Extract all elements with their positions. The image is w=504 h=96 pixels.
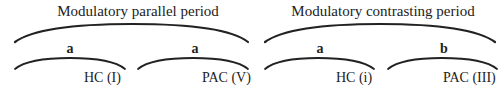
period-2-phrase-1-cadence: HC (i) — [336, 70, 372, 86]
period-2-phrase-1-arc — [265, 58, 374, 69]
period-1-arc — [15, 24, 248, 42]
period-2-phrase-2-cadence: PAC (III) — [443, 70, 496, 86]
period-1-phrase-1-arc — [15, 58, 125, 69]
period-1-phrase-2-label: a — [192, 41, 199, 57]
period-2-phrase-1-label: a — [317, 41, 324, 57]
period-1-title: Modulatory parallel period — [57, 3, 219, 20]
period-1-phrase-1-cadence: HC (I) — [84, 70, 121, 86]
period-2-arc — [265, 24, 495, 42]
period-2-title: Modulatory contrasting period — [291, 3, 474, 20]
period-1-phrase-1-label: a — [67, 41, 74, 57]
period-1-phrase-2-arc — [138, 58, 248, 69]
period-2-phrase-2-label: b — [440, 41, 448, 57]
period-2-phrase-2-arc — [388, 58, 497, 69]
period-1-phrase-2-cadence: PAC (V) — [202, 70, 251, 86]
